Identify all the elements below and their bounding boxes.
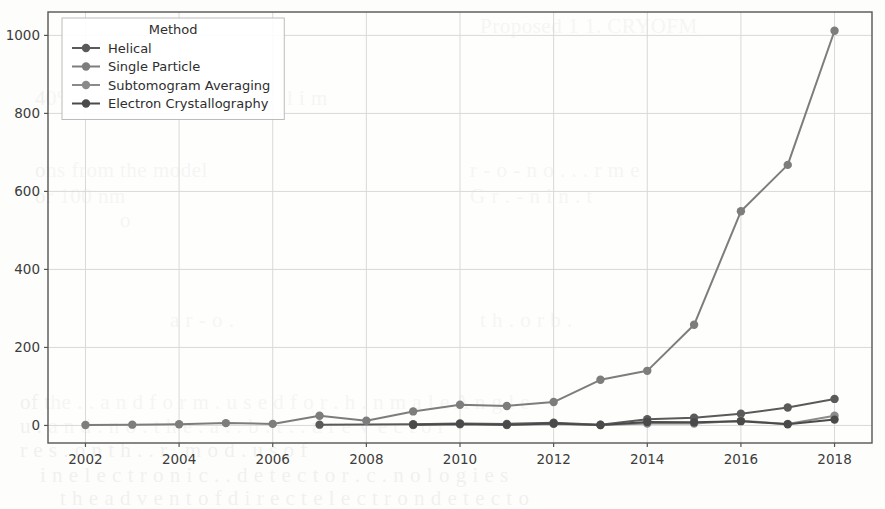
x-axis-ticks: 200220042006200820102012201420162018 <box>68 443 851 467</box>
x-tick-label: 2008 <box>349 451 383 467</box>
legend-label: Subtomogram Averaging <box>108 78 270 93</box>
y-tick-label: 0 <box>31 417 40 433</box>
legend-marker <box>82 81 90 89</box>
y-axis-ticks: 02004006008001000 <box>6 27 48 433</box>
y-tick-label: 600 <box>14 183 40 199</box>
data-point <box>596 421 604 429</box>
legend-title: Method <box>149 22 198 37</box>
data-point <box>503 420 511 428</box>
data-point <box>690 321 698 329</box>
x-tick-label: 2002 <box>68 451 102 467</box>
data-point <box>784 403 792 411</box>
data-point <box>690 418 698 426</box>
data-point <box>643 418 651 426</box>
data-point <box>456 420 464 428</box>
x-tick-label: 2010 <box>443 451 477 467</box>
y-tick-label: 200 <box>14 339 40 355</box>
data-point <box>315 412 323 420</box>
x-tick-label: 2006 <box>256 451 290 467</box>
data-point <box>409 420 417 428</box>
x-tick-label: 2018 <box>817 451 851 467</box>
data-point <box>222 419 230 427</box>
data-point <box>409 407 417 415</box>
data-point <box>830 395 838 403</box>
chart-legend: Method HelicalSingle ParticleSubtomogram… <box>62 18 284 120</box>
data-point <box>175 420 183 428</box>
data-point <box>737 417 745 425</box>
legend-label: Electron Crystallography <box>108 96 269 111</box>
data-point <box>784 420 792 428</box>
data-point <box>362 417 370 425</box>
legend-marker <box>82 44 90 52</box>
legend-label: Helical <box>108 41 152 56</box>
legend-label: Single Particle <box>108 59 200 74</box>
y-tick-label: 400 <box>14 261 40 277</box>
data-point <box>737 207 745 215</box>
legend-marker <box>82 62 90 70</box>
data-point <box>269 420 277 428</box>
data-point <box>503 402 511 410</box>
data-point <box>830 27 838 35</box>
data-point <box>549 419 557 427</box>
data-point <box>549 398 557 406</box>
x-tick-label: 2016 <box>724 451 758 467</box>
x-tick-label: 2004 <box>162 451 196 467</box>
legend-marker <box>82 99 90 107</box>
data-point <box>315 420 323 428</box>
x-tick-label: 2012 <box>536 451 570 467</box>
data-point <box>643 367 651 375</box>
data-point <box>596 376 604 384</box>
x-tick-label: 2014 <box>630 451 664 467</box>
data-point <box>456 401 464 409</box>
y-tick-label: 1000 <box>6 27 40 43</box>
data-point <box>784 161 792 169</box>
data-point <box>830 415 838 423</box>
y-tick-label: 800 <box>14 105 40 121</box>
data-point <box>81 421 89 429</box>
data-point <box>128 420 136 428</box>
